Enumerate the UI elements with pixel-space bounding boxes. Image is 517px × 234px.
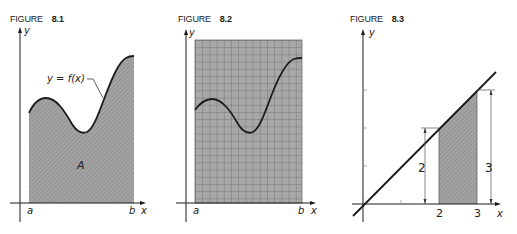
figure-8-2: y x a b xyxy=(176,27,317,222)
y-axis-arrow-icon xyxy=(18,27,22,33)
y-axis-label: y xyxy=(23,25,31,36)
tick-a-label: a xyxy=(193,205,199,216)
curve-label: y = f(x) xyxy=(46,73,85,84)
x-axis-label: x xyxy=(310,205,317,216)
x-axis-arrow-icon xyxy=(495,202,501,206)
tick-3-label: 3 xyxy=(474,207,481,220)
figure-8-3: y x 2 3 2 3 xyxy=(352,27,503,222)
x-axis-label: x xyxy=(140,205,147,216)
tick-2-label: 2 xyxy=(436,207,443,220)
y-axis-arrow-icon xyxy=(184,29,188,35)
x-axis-label: x xyxy=(496,208,503,219)
y-axis-label: y xyxy=(188,27,196,38)
grid-rectangle xyxy=(195,40,302,203)
height-3-dimension xyxy=(477,90,495,204)
figures-canvas: y x a b y = f(x) A y x a b xyxy=(0,0,517,234)
y-axis-label: y xyxy=(368,27,376,38)
shaded-trapezoid xyxy=(439,90,477,204)
tick-a-label: a xyxy=(27,205,33,216)
area-label: A xyxy=(76,159,85,172)
height-left-label: 2 xyxy=(418,161,426,175)
height-right-label: 3 xyxy=(485,161,493,175)
y-axis-arrow-icon xyxy=(361,29,365,35)
curve-leader-line xyxy=(87,79,103,98)
tick-b-label: b xyxy=(298,205,304,216)
tick-b-label: b xyxy=(129,205,135,216)
figure-8-1: y x a b y = f(x) A xyxy=(10,25,147,222)
